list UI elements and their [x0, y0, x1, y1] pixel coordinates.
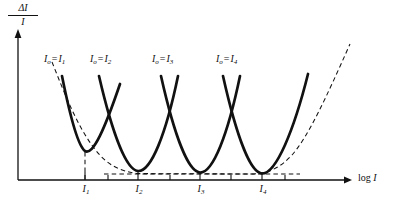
curve-label-3-rhs-sub: 3: [170, 58, 174, 66]
y-axis-label-denominator: I: [8, 16, 38, 28]
threshold-curve-I2: [99, 76, 178, 171]
curve-label-2-rhs-sub: 2: [108, 58, 112, 66]
x-axis-ticks: [85, 172, 285, 180]
axes-group: [15, 29, 352, 183]
plot-canvas: [0, 0, 407, 207]
threshold-curve-I1: [62, 76, 120, 152]
threshold-curve-I3: [161, 76, 240, 173]
x-tick-label-I3: I3: [194, 184, 208, 196]
threshold-curve-I4: [223, 74, 308, 174]
x-axis-arrowhead: [344, 177, 352, 184]
x-tick-label-I1-sub: 1: [86, 188, 90, 196]
curve-label-1-rhs-sub: 1: [62, 58, 66, 66]
x-axis-label-prefix: log: [358, 172, 371, 183]
x-tick-label-I4: I4: [256, 184, 270, 196]
y-axis-arrowhead: [15, 29, 22, 38]
curve-label-1: Io=I1: [44, 54, 65, 66]
figure-container: ΔI I log I Io=I1 Io=I2 Io=I3 Io=I4 I1 I2…: [0, 0, 407, 207]
curve-label-3: Io=I3: [152, 54, 173, 66]
x-tick-label-I4-sub: 4: [263, 188, 267, 196]
x-axis-label-variable: I: [373, 172, 376, 183]
x-axis-label: log I: [358, 173, 377, 183]
y-axis-label: ΔI I: [8, 3, 38, 27]
curve-label-2: Io=I2: [90, 54, 111, 66]
x-tick-label-I1: I1: [79, 184, 93, 196]
x-tick-label-I2-sub: 2: [139, 188, 143, 196]
curve-label-4-rhs-sub: 4: [234, 58, 238, 66]
x-tick-label-I2: I2: [132, 184, 146, 196]
x-tick-label-I3-sub: 3: [201, 188, 205, 196]
threshold-curves-group: [62, 74, 308, 174]
curve-label-4: Io=I4: [216, 54, 237, 66]
y-axis-label-numerator: ΔI: [8, 3, 38, 16]
